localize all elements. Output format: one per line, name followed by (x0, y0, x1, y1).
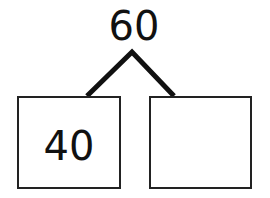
part-number-left: 40 (44, 126, 95, 166)
part-box-right[interactable] (149, 96, 252, 189)
part-box-left: 40 (17, 96, 121, 189)
